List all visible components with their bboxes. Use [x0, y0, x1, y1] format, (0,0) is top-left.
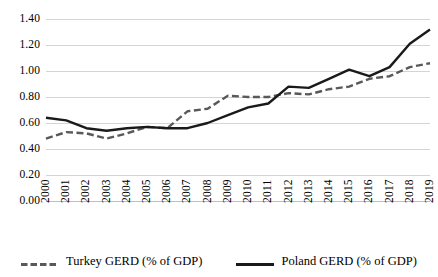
x-axis-tick-label: 2010 [242, 179, 254, 203]
y-axis-tick-label: 1.20 [19, 39, 40, 51]
x-axis-tick-label: 2009 [222, 179, 234, 203]
x-axis: 2000200120022003200420052006200720082009… [46, 203, 430, 245]
gerd-line-chart: 1.401.201.000.800.600.400.200.00 2000200… [0, 0, 438, 277]
y-axis-tick-label: 0.00 [19, 195, 40, 207]
legend-label: Poland GERD (% of GDP) [281, 255, 416, 268]
x-axis-tick-label: 2003 [101, 179, 113, 203]
x-axis-tick-label: 2016 [364, 179, 376, 203]
x-axis-tick-label: 2004 [121, 179, 133, 203]
dashed-line-swatch [21, 256, 59, 267]
y-axis-tick-label: 0.40 [19, 143, 40, 155]
y-axis-tick-label: 0.60 [19, 117, 40, 129]
x-axis-tick-label: 2008 [202, 179, 214, 203]
x-axis-tick-label: 2018 [404, 179, 416, 203]
x-axis-tick-label: 2011 [263, 180, 275, 203]
series-lines [46, 19, 430, 201]
y-axis-tick-label: 0.80 [19, 91, 40, 103]
solid-line-swatch [236, 256, 274, 267]
x-axis-tick-label: 2017 [384, 179, 396, 203]
x-axis-tick-label: 2005 [141, 179, 153, 203]
x-axis-tick-label: 2019 [424, 179, 436, 203]
legend-item[interactable]: Poland GERD (% of GDP) [236, 255, 416, 268]
legend-label: Turkey GERD (% of GDP) [66, 255, 202, 268]
plot-area [46, 19, 430, 201]
x-axis-tick-label: 2001 [60, 179, 72, 203]
y-axis-tick-label: 1.00 [19, 65, 40, 77]
x-axis-tick-label: 2006 [162, 179, 174, 203]
x-axis-tick-label: 2014 [323, 179, 335, 203]
x-axis-tick-label: 2002 [81, 179, 93, 203]
x-axis-tick-label: 2015 [343, 179, 355, 203]
x-axis-tick-label: 2007 [182, 179, 194, 203]
x-axis-tick-label: 2013 [303, 179, 315, 203]
x-axis-tick-label: 2012 [283, 179, 295, 203]
chart-legend: Turkey GERD (% of GDP)Poland GERD (% of … [0, 250, 438, 272]
series-line-poland [46, 29, 430, 130]
x-axis-tick-label: 2000 [40, 179, 52, 203]
y-axis-tick-label: 1.40 [19, 13, 40, 25]
legend-item[interactable]: Turkey GERD (% of GDP) [21, 255, 202, 268]
y-axis-tick-label: 0.20 [19, 169, 40, 181]
